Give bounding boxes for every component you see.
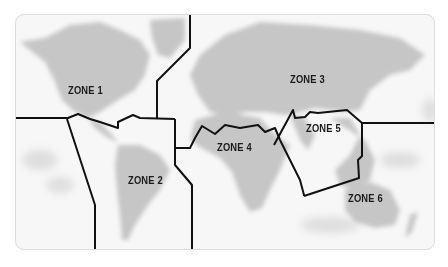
zone-3-label: ZONE 3 [290,73,325,85]
world-zone-map [0,0,448,267]
zone-5-label: ZONE 5 [306,122,341,134]
zone-4-label: ZONE 4 [217,141,252,153]
landmass-north-america [20,22,150,118]
landmass-new-zealand [405,212,418,238]
landmass-south-america [115,145,170,240]
boundary-zone4-zone5 [280,140,304,196]
zone-6-label: ZONE 6 [348,192,383,204]
boundary-zone2-east [175,119,192,249]
landmass-eurasia [190,22,425,116]
landmass-greenland [150,18,185,58]
zone-2-label: ZONE 2 [128,174,163,186]
zone-1-label: ZONE 1 [68,84,103,96]
landmass-central-america [88,118,118,142]
landmasses [20,18,425,240]
